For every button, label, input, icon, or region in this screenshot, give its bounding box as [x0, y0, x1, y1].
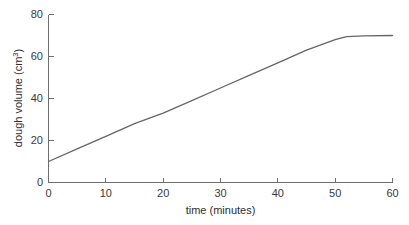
x-tick-label: 60	[386, 187, 398, 199]
x-tick-label: 20	[157, 187, 169, 199]
line-chart-plot: 0 20 40 60 80 dough volume (cm3)	[0, 0, 409, 225]
x-tick-label: 0	[45, 187, 51, 199]
y-tick-label: 60	[31, 50, 43, 62]
y-axis-title-base: dough volume (cm	[12, 57, 24, 148]
y-tick-label: 0	[37, 176, 43, 188]
y-tick-label: 40	[31, 92, 43, 104]
chart-background	[0, 0, 409, 225]
y-axis-title: dough volume (cm3)	[11, 49, 24, 147]
x-tick-label: 40	[272, 187, 284, 199]
y-tick-label: 80	[31, 8, 43, 20]
x-tick-label: 10	[100, 187, 112, 199]
x-tick-label: 50	[329, 187, 341, 199]
chart-container: 0 20 40 60 80 dough volume (cm3)	[0, 0, 409, 225]
y-tick-label: 20	[31, 134, 43, 146]
y-axis-title-group: dough volume (cm3)	[11, 49, 24, 147]
x-axis-title: time (minutes)	[186, 204, 256, 216]
y-axis-title-close: )	[12, 49, 24, 53]
x-tick-label: 30	[214, 187, 226, 199]
